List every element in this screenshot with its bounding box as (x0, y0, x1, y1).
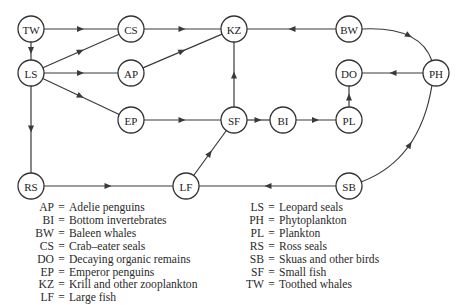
node-label: LS (25, 68, 38, 80)
arrowhead-icon (346, 94, 352, 101)
node-label: SF (228, 115, 240, 127)
arrowhead-icon (77, 70, 84, 76)
node-rs: RS (18, 173, 44, 199)
legend-name: Large fish (69, 292, 116, 305)
food-web-diagram: TWCSKZBWLSAPDOPHEPSFBIPLRSLFSB (0, 0, 463, 210)
legend-equals: = (54, 292, 69, 305)
legend-abbr: BI (18, 215, 54, 228)
legend-entry: PL=Plankton (236, 228, 379, 241)
arrowhead-icon (405, 142, 411, 150)
node-label: RS (24, 181, 37, 193)
arrowhead-icon (312, 117, 319, 123)
legend-abbr: TW (236, 279, 264, 292)
arrowhead-icon (77, 26, 84, 32)
edge-bw-to-ph (362, 29, 432, 61)
legend-equals: = (264, 215, 279, 228)
arrowhead-icon (231, 72, 237, 79)
node-label: PL (343, 115, 356, 127)
legend-name: Toothed whales (279, 279, 352, 292)
legend-equals: = (264, 279, 279, 292)
legend-equals: = (54, 241, 69, 254)
legend-equals: = (264, 228, 279, 241)
node-label: SB (342, 181, 355, 193)
node-ls: LS (18, 60, 44, 86)
legend-equals: = (54, 215, 69, 228)
legend-name: Adelie penguins (69, 202, 145, 215)
legend-entry: BI=Bottom invertebrates (18, 215, 197, 228)
arrowhead-icon (179, 117, 186, 123)
legend-entry: SB=Skuas and other birds (236, 254, 379, 267)
node-sb: SB (336, 173, 362, 199)
node-ph: PH (423, 60, 449, 86)
legend-abbr: CS (18, 241, 54, 254)
legend-name: Crab–eater seals (69, 241, 145, 254)
node-label: PH (429, 68, 443, 80)
node-lf: LF (173, 173, 199, 199)
legend-entry: LS=Leopard seals (236, 202, 379, 215)
legend-abbr: BW (18, 228, 54, 241)
arrowhead-icon (265, 183, 272, 189)
legend-entry: RS=Ross seals (236, 241, 379, 254)
arrowhead-icon (255, 117, 262, 123)
node-cs: CS (118, 16, 144, 42)
legend-equals: = (264, 202, 279, 215)
legend-entry: LF=Large fish (18, 292, 197, 305)
edge-sb-to-ph (361, 85, 432, 182)
node-pl: PL (336, 107, 362, 133)
node-do: DO (336, 60, 362, 86)
legend-abbr: PH (236, 215, 264, 228)
legend-abbr: LF (18, 292, 54, 305)
legend-entry: TW=Toothed whales (236, 279, 379, 292)
legend-name: Baleen whales (69, 228, 136, 241)
legend-name: Leopard seals (279, 202, 343, 215)
node-bi: BI (270, 107, 296, 133)
node-label: AP (124, 68, 138, 80)
arrowhead-icon (28, 47, 34, 54)
arrowhead-icon (105, 183, 112, 189)
arrowhead-icon (28, 126, 34, 133)
node-label: DO (341, 68, 357, 80)
legend-abbr: AP (18, 202, 54, 215)
legend-abbr: RS (236, 241, 264, 254)
legend-equals: = (54, 254, 69, 267)
legend-equals: = (54, 228, 69, 241)
legend-entry: AP=Adelie penguins (18, 202, 197, 215)
node-sf: SF (221, 107, 247, 133)
legend-name: Ross seals (279, 241, 327, 254)
node-ep: EP (118, 107, 144, 133)
legend-name: Decaying organic remains (69, 254, 190, 267)
legend-name: Phytoplankton (279, 215, 347, 228)
legend-entry: CS=Crab–eater seals (18, 241, 197, 254)
node-label: BW (340, 24, 358, 36)
legend-equals: = (264, 241, 279, 254)
node-kz: KZ (221, 16, 247, 42)
legend-abbr: LS (236, 202, 264, 215)
legend-equals: = (54, 202, 69, 215)
legend-left-column: AP=Adelie penguins BI=Bottom invertebrat… (18, 202, 197, 305)
node-label: CS (124, 24, 137, 36)
node-tw: TW (18, 16, 44, 42)
arrowhead-icon (289, 26, 296, 32)
node-ap: AP (118, 60, 144, 86)
legend-abbr: SB (236, 254, 264, 267)
node-label: LF (180, 181, 193, 193)
legend-abbr: PL (236, 228, 264, 241)
node-label: KZ (227, 24, 242, 36)
node-label: EP (125, 115, 138, 127)
legend-entry: DO=Decaying organic remains (18, 254, 197, 267)
node-label: TW (22, 24, 40, 36)
node-bw: BW (336, 16, 362, 42)
legend-equals: = (264, 254, 279, 267)
legend-name: Skuas and other birds (279, 254, 379, 267)
arrowhead-icon (205, 151, 212, 158)
legend-right-column: LS=Leopard seals PH=Phytoplankton PL=Pla… (236, 202, 379, 292)
legend-entry: BW=Baleen whales (18, 228, 197, 241)
legend-name: Bottom invertebrates (69, 215, 167, 228)
legend-name: Plankton (279, 228, 320, 241)
node-label: BI (278, 115, 289, 127)
legend-abbr: DO (18, 254, 54, 267)
arrowhead-icon (179, 26, 186, 32)
legend-entry: PH=Phytoplankton (236, 215, 379, 228)
arrowhead-icon (390, 70, 397, 76)
